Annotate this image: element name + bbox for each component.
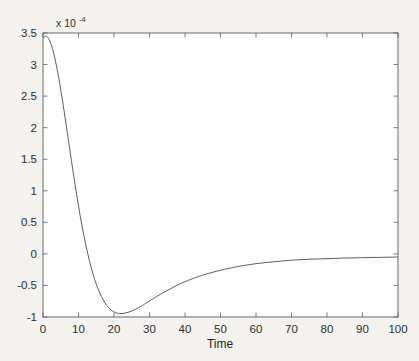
y-tick-label: 0.5 [21,216,37,228]
x-tick-label: 70 [285,323,298,335]
y-tick-label: -0.5 [17,279,37,291]
y-tick-label: 1.5 [21,153,37,165]
x-tick-label: 40 [179,323,192,335]
y-tick-label: 0 [31,248,37,260]
x-tick-label: 80 [321,323,334,335]
y-tick-label: -1 [27,311,37,323]
x-tick-label: 90 [356,323,369,335]
chart-plot: 0102030405060708090100 -1-0.500.511.522.… [0,0,419,361]
y-tick-label: 2 [31,122,37,134]
axes-background [43,33,398,317]
x-tick-label: 100 [388,323,407,335]
x-tick-label: 50 [214,323,227,335]
y-tick-label: 3 [31,59,37,71]
x-tick-label: 20 [108,323,121,335]
y-exponent-label: x 10 [56,17,76,29]
x-tick-label: 10 [72,323,85,335]
x-tick-label: 60 [250,323,263,335]
x-axis-title: Time [207,337,234,351]
y-tick-label: 3.5 [21,27,37,39]
y-tick-label: 1 [31,185,37,197]
figure-container: 0102030405060708090100 -1-0.500.511.522.… [0,0,419,361]
y-tick-label: 2.5 [21,90,37,102]
x-tick-label: 30 [143,323,156,335]
x-tick-label: 0 [40,323,46,335]
y-exponent-power: -4 [79,15,86,24]
